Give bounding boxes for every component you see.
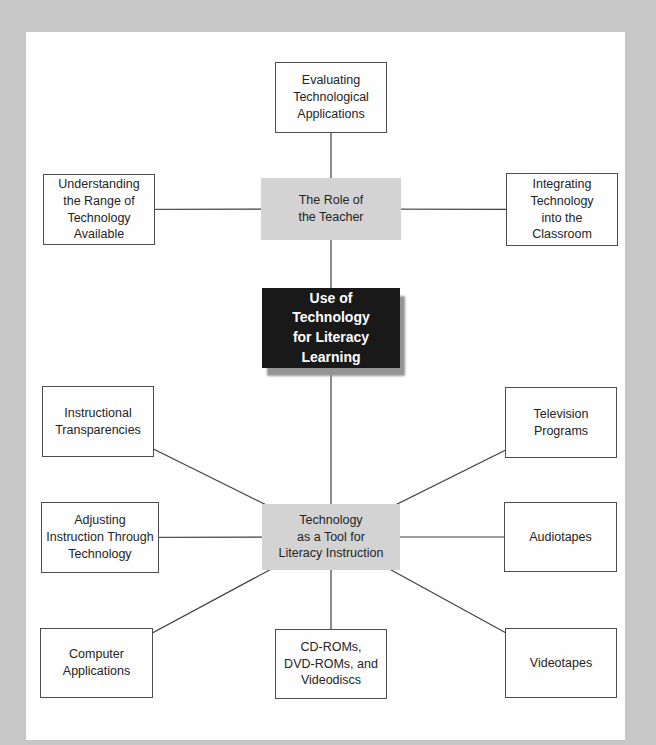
node-understanding-the-range-of-technology-available: Understanding the Range of Technology Av… [43,174,155,245]
node-instructional-transparencies: Instructional Transparencies [42,386,154,457]
scanned-diagram-page: Evaluating Technological Applications Un… [0,0,656,745]
node-videotapes: Videotapes [505,628,617,698]
node-integrating-technology-into-the-classroom: Integrating Technology into the Classroo… [506,173,618,246]
node-use-of-technology-for-literacy-learning: Use of Technology for Literacy Learning [262,288,400,368]
node-technology-as-a-tool-for-literacy-instruction: Technology as a Tool for Literacy Instru… [262,504,400,570]
node-computer-applications: Computer Applications [40,628,153,698]
node-the-role-of-the-teacher: The Role of the Teacher [261,178,401,240]
node-evaluating-technological-applications: Evaluating Technological Applications [275,62,387,133]
node-cd-roms-dvd-roms-and-videodiscs: CD-ROMs, DVD-ROMs, and Videodiscs [275,629,387,699]
node-adjusting-instruction-through-technology: Adjusting Instruction Through Technology [41,502,159,573]
node-audiotapes: Audiotapes [504,502,617,572]
node-television-programs: Television Programs [505,387,617,458]
